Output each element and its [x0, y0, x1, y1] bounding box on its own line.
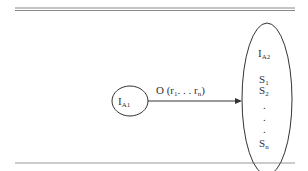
edge-label: O (r1. . . rn) — [156, 85, 205, 98]
source-node-label: IA1 — [118, 96, 130, 109]
target-node-label: IA2 — [258, 48, 270, 61]
set-item-s2: S2 — [259, 85, 269, 98]
set-item-sn: Sn — [259, 138, 269, 151]
ellipsis-dot: . — [263, 112, 266, 123]
arrowhead-icon — [235, 98, 242, 104]
ellipsis-dot: . — [263, 100, 266, 111]
ellipsis-dot: . — [263, 124, 266, 135]
